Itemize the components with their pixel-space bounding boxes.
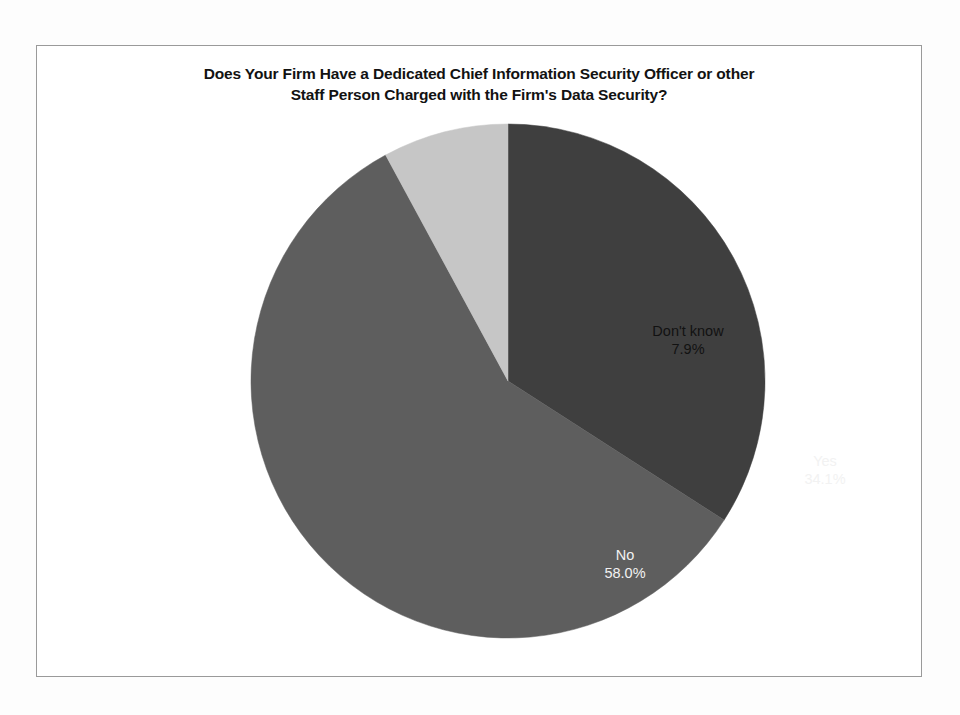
chart-title-line-2: Staff Person Charged with the Firm's Dat…: [37, 84, 921, 105]
pie-slice-label-yes: Yes 34.1%: [775, 452, 875, 488]
scanned-page: Does Your Firm Have a Dedicated Chief In…: [0, 0, 960, 715]
pie-slice-group: [251, 124, 765, 638]
chart-title-line-1: Does Your Firm Have a Dedicated Chief In…: [37, 63, 921, 84]
pie-chart-svg: [248, 121, 768, 641]
chart-title: Does Your Firm Have a Dedicated Chief In…: [37, 63, 921, 105]
pie-chart: Yes 34.1% No 58.0% Don't know 7.9%: [248, 121, 768, 641]
pie-slice-label-yes-name: Yes: [775, 452, 875, 470]
pie-slice-label-yes-value: 34.1%: [775, 470, 875, 488]
chart-figure-frame: Does Your Firm Have a Dedicated Chief In…: [36, 45, 922, 677]
